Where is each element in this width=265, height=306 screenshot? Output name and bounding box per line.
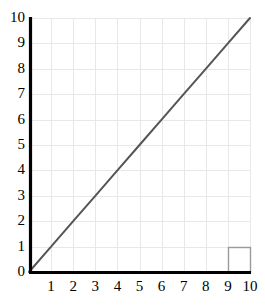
y-tick-label-0: 0 — [18, 264, 26, 279]
y-tick-label-8: 8 — [18, 61, 26, 76]
y-tick-label-9: 9 — [18, 35, 26, 50]
y-tick-label-7: 7 — [18, 86, 26, 101]
y-tick-label-5: 5 — [18, 137, 26, 152]
chart-container: 012345678910 12345678910 — [0, 0, 265, 306]
y-tick-label-10: 10 — [10, 10, 25, 25]
y-tick-label-3: 3 — [18, 188, 26, 203]
y-tick-label-2: 2 — [18, 213, 26, 228]
y-tick-label-6: 6 — [18, 112, 26, 127]
x-tick-label-10: 10 — [235, 279, 265, 294]
y-tick-label-4: 4 — [18, 162, 26, 177]
y-tick-label-1: 1 — [18, 239, 26, 254]
chart-plot-svg — [0, 0, 265, 306]
